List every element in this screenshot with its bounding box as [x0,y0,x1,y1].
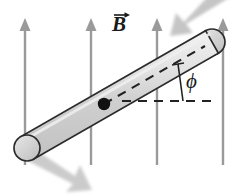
angle-label: ϕ [186,71,197,92]
pivot-point [98,98,110,110]
rod-end-cap-bottom-left [14,135,40,161]
magnetic-field-label: B [112,14,126,35]
rod-highlight [26,34,211,140]
figure-root: B ϕ [0,0,233,195]
magnetic-field-arrow-2 [86,18,97,165]
